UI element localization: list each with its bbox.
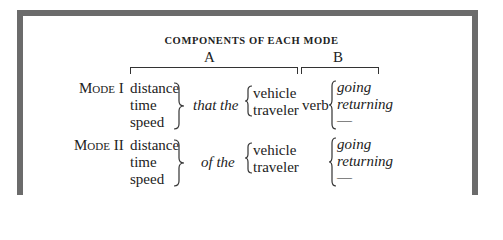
subject-vehicle: vehicle — [253, 142, 296, 159]
subject-vehicle: vehicle — [253, 85, 296, 102]
direction-returning: returning — [337, 153, 393, 170]
right-brace-icon — [172, 139, 186, 187]
column-b-label: B — [333, 49, 343, 66]
mode-2-label: Mode II — [74, 137, 124, 154]
subject-traveler: traveler — [253, 102, 299, 119]
component-time: time — [130, 97, 157, 114]
component-time: time — [130, 154, 157, 171]
column-a-label: A — [204, 49, 215, 66]
verb-label: verb — [302, 97, 329, 114]
component-speed: speed — [130, 171, 164, 188]
component-speed: speed — [130, 114, 164, 131]
column-a-bracket — [130, 67, 298, 74]
direction-going: going — [337, 79, 371, 96]
mode-1-label: Mode I — [79, 80, 124, 97]
direction-returning: returning — [337, 96, 393, 113]
direction-going: going — [337, 136, 371, 153]
figure-title: COMPONENTS OF EACH MODE — [0, 35, 503, 46]
direction-blank: — — [337, 112, 352, 129]
subject-traveler: traveler — [253, 159, 299, 176]
right-brace-icon — [172, 82, 186, 130]
direction-blank: — — [337, 169, 352, 186]
column-b-bracket — [301, 67, 379, 74]
connector-text: that the — [193, 97, 238, 114]
connector-text: of the — [201, 154, 235, 171]
